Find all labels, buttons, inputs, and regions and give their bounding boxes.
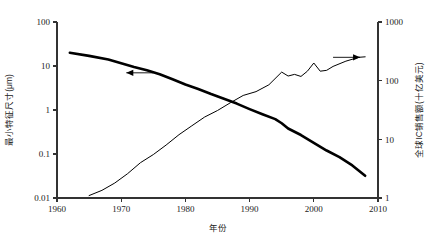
right-tick-label: 1000	[385, 17, 404, 27]
right-tick-label: 1	[385, 193, 390, 203]
bottom-tick-label: 1960	[48, 204, 67, 214]
x-axis-title: 年份	[209, 223, 227, 233]
bottom-tick-label: 2000	[305, 204, 324, 214]
right-tick-label: 10	[385, 135, 395, 145]
right-tick-label: 100	[385, 76, 399, 86]
chart-figure: 1001010.10.01 1000100101 196019701980199…	[0, 0, 432, 244]
left-tick-label: 10	[41, 61, 51, 71]
bottom-tick-label: 1980	[176, 204, 195, 214]
bottom-tick-label: 1970	[112, 204, 131, 214]
semilog-dual-axis-chart: 1001010.10.01 1000100101 196019701980199…	[0, 0, 432, 244]
left-axis-title: 最小特征尺寸(μm)	[4, 74, 14, 146]
left-tick-label: 100	[37, 17, 51, 27]
left-tick-label: 0.01	[34, 193, 50, 203]
left-tick-label: 0.1	[39, 149, 50, 159]
right-axis-title: 全球IC销售额(十亿美元)	[414, 62, 424, 157]
bottom-tick-label: 2010	[369, 204, 388, 214]
left-tick-label: 1	[46, 105, 51, 115]
bottom-tick-label: 1990	[241, 204, 260, 214]
